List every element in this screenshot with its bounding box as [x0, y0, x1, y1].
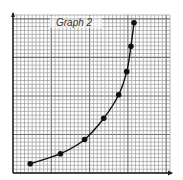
- data-point-marker: [58, 151, 64, 157]
- data-point-marker: [131, 20, 137, 26]
- axes: [11, 12, 173, 176]
- graph-2-chart: Graph 2: [0, 0, 183, 180]
- data-point-marker: [128, 43, 134, 49]
- chart-title: Graph 2: [56, 17, 93, 28]
- data-point-marker: [82, 137, 88, 143]
- data-point-marker: [27, 161, 33, 167]
- data-point-marker: [124, 69, 130, 75]
- data-point-marker: [116, 92, 122, 98]
- graph-paper-grid: [13, 15, 170, 173]
- data-point-marker: [101, 115, 107, 121]
